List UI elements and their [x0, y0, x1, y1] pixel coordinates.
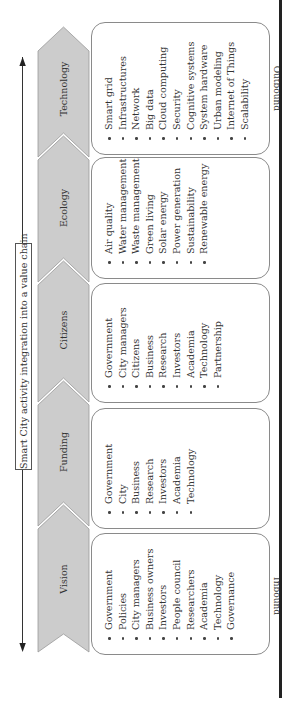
list-item: Technology [197, 307, 211, 390]
list-item: Sustainability [184, 158, 198, 266]
list-item: Scalability [238, 42, 252, 142]
chevron-label-funding: Funding [38, 402, 89, 502]
list-item: Renewable energy [197, 158, 211, 266]
list-item: Government [102, 307, 116, 390]
list-item: Investors [156, 549, 170, 642]
stage-list-ecology: Air quality Water management Waste manag… [102, 158, 211, 266]
list-item: System hardware [197, 42, 211, 142]
list-item: Research [143, 444, 157, 516]
chevron-label-ecology: Ecology [38, 158, 89, 258]
list-item: Solar energy [156, 158, 170, 266]
list-item: Power generation [170, 158, 184, 266]
list-item: People council [170, 549, 184, 642]
list-item: Cloud computing [156, 42, 170, 142]
list-item: Business [143, 307, 157, 390]
stage-box-vision: Government Policies City managers Busine… [91, 533, 270, 655]
list-item: Investors [170, 307, 184, 390]
list-item: Big data [143, 42, 157, 142]
stage-box-ecology: Air quality Water management Waste manag… [91, 157, 270, 279]
list-item: Network [129, 42, 143, 142]
chevron-label-citizens: Citizens [38, 282, 89, 378]
list-item: Infrastructures [116, 42, 130, 142]
list-item: Researchers [184, 549, 198, 642]
chevron-label-technology: Technology [38, 45, 89, 133]
list-item: City managers [129, 549, 143, 642]
value-chain-diagram: Smart City activity integration into a v… [0, 0, 287, 701]
list-item: Internet of Things [224, 42, 238, 142]
stage-list-vision: Government Policies City managers Busine… [102, 549, 238, 642]
list-item: Cognitive systems [184, 42, 198, 142]
list-item: Technology [184, 444, 198, 516]
list-item: Waste management [129, 158, 143, 266]
list-item: Citizens [129, 307, 143, 390]
list-item: Technology [211, 549, 225, 642]
list-item: Academia [197, 549, 211, 642]
stage-list-citizens: Government City managers Citizens Busine… [102, 307, 224, 390]
list-item: Academia [170, 444, 184, 516]
list-item: Urban modeling [211, 42, 225, 142]
list-item: Air quality [102, 158, 116, 266]
chevron-label-vision: Vision [38, 524, 89, 634]
list-item: Water management [116, 158, 130, 266]
list-item: City [116, 444, 130, 516]
stage-box-technology: Smart grid Infrastructures Network Big d… [91, 22, 270, 155]
stage-box-funding: Government City Business Research Invest… [91, 408, 270, 529]
list-item: Investors [156, 444, 170, 516]
list-item: Governance [224, 549, 238, 642]
stage-box-citizens: Government City managers Citizens Busine… [91, 283, 270, 403]
list-item: Business owners [143, 549, 157, 642]
list-item: Business [129, 444, 143, 516]
list-item: Security [170, 42, 184, 142]
list-item: Research [156, 307, 170, 390]
list-item: Green living [143, 158, 157, 266]
list-item: Government [102, 444, 116, 516]
list-item: Partnership [211, 307, 225, 390]
list-item: Academia [184, 307, 198, 390]
list-item: City managers [116, 307, 130, 390]
stage-list-technology: Smart grid Infrastructures Network Big d… [102, 42, 252, 142]
list-item: Government [102, 549, 116, 642]
list-item: Smart grid [102, 42, 116, 142]
stage-list-funding: Government City Business Research Invest… [102, 444, 197, 516]
page-rule [279, 0, 282, 698]
list-item: Policies [116, 549, 130, 642]
